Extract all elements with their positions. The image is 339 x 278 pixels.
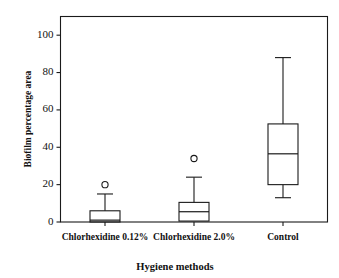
y-tick-label: 80 [43,65,55,77]
x-tick-label: Chlorhexidine 2.0% [153,232,235,242]
y-axis-title: Biofilm percentage area [23,70,33,167]
y-tick-label: 0 [48,215,54,227]
x-tick-label: Control [267,232,299,242]
x-tick-label: Chlorhexidine 0.12% [62,232,149,242]
boxplot-figure: 020406080100 Chlorhexidine 0.12%Chlorhex… [0,0,339,278]
boxplot-canvas: 020406080100 Chlorhexidine 0.12%Chlorhex… [0,0,339,278]
y-tick-label: 20 [43,177,55,189]
y-tick-label: 60 [43,102,55,114]
x-axis-title: Hygiene methods [136,261,213,272]
y-tick-label: 40 [43,140,55,152]
y-tick-label: 100 [37,28,54,40]
